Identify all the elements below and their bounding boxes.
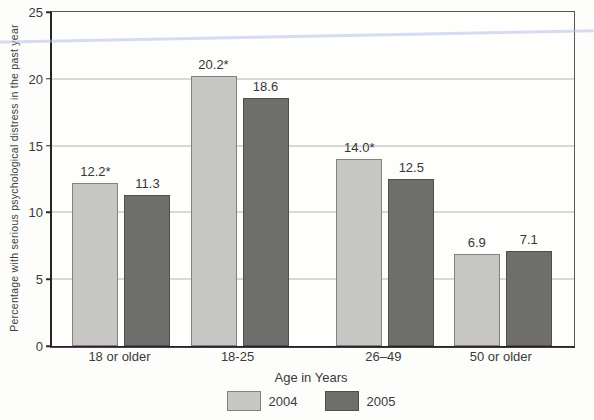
bar-column-2004: 20.2*: [191, 12, 237, 346]
bar-2004: [454, 254, 500, 346]
bar-value-label-2005: 12.5: [399, 161, 424, 174]
bar-2005: [243, 98, 289, 346]
bar-column-2005: 12.5: [388, 12, 434, 346]
plot-area: 051015202512.2*11.320.2*18.614.0*12.56.9…: [50, 11, 575, 348]
y-tick-mark-5: [46, 278, 50, 280]
y-tick-label-20: 20: [29, 72, 43, 85]
bar-2005: [506, 251, 552, 346]
y-tick-label-25: 25: [29, 6, 43, 19]
y-tick-mark-10: [46, 212, 50, 214]
x-category-label-2: 18-25: [221, 349, 254, 365]
bar-2005: [124, 195, 170, 346]
x-axis-title: Age in Years: [50, 370, 572, 385]
y-axis-title: Percentage with serious psychological di…: [8, 24, 20, 332]
bar-group-4: 6.97.1: [454, 12, 552, 346]
bar-2004: [336, 159, 382, 346]
y-tick-mark-0: [46, 345, 50, 347]
y-tick-mark-20: [46, 78, 50, 80]
bar-value-label-2004: 12.2*: [80, 165, 110, 178]
legend: 2004 2005: [50, 391, 572, 411]
legend-item-2005: 2005: [325, 391, 396, 411]
bar-column-2005: 11.3: [124, 12, 170, 346]
y-tick-label-15: 15: [29, 139, 43, 152]
bar-value-label-2005: 7.1: [520, 233, 538, 246]
x-category-label-1: 18 or older: [88, 349, 150, 365]
legend-label-2005: 2005: [367, 394, 396, 409]
legend-label-2004: 2004: [269, 394, 298, 409]
bar-2005: [388, 179, 434, 346]
bar-value-label-2004: 14.0*: [344, 141, 374, 154]
x-category-label-3: 26–49: [365, 349, 401, 365]
y-tick-mark-25: [46, 11, 50, 13]
bar-value-label-2005: 18.6: [253, 80, 278, 93]
legend-item-2004: 2004: [227, 391, 298, 411]
bar-group-1: 12.2*11.3: [72, 12, 170, 346]
bar-value-label-2005: 11.3: [135, 177, 159, 190]
y-tick-mark-15: [46, 145, 50, 147]
bar-2004: [191, 76, 237, 346]
legend-swatch-2004: [227, 391, 261, 411]
bar-column-2005: 18.6: [243, 12, 289, 346]
y-tick-label-0: 0: [36, 340, 43, 353]
bar-value-label-2004: 6.9: [468, 236, 486, 249]
bar-group-2: 20.2*18.6: [191, 12, 289, 346]
bar-column-2004: 14.0*: [336, 12, 382, 346]
bar-2004: [72, 183, 118, 346]
legend-swatch-2005: [325, 391, 359, 411]
bar-column-2005: 7.1: [506, 12, 552, 346]
y-tick-label-10: 10: [29, 206, 43, 219]
y-tick-label-5: 5: [36, 273, 43, 286]
x-axis-labels: 18 or older18-2526–4950 or older: [50, 349, 572, 365]
bar-column-2004: 12.2*: [72, 12, 118, 346]
x-category-label-4: 50 or older: [470, 349, 532, 365]
bar-value-label-2004: 20.2*: [198, 58, 228, 71]
bar-group-3: 14.0*12.5: [336, 12, 434, 346]
bar-column-2004: 6.9: [454, 12, 500, 346]
